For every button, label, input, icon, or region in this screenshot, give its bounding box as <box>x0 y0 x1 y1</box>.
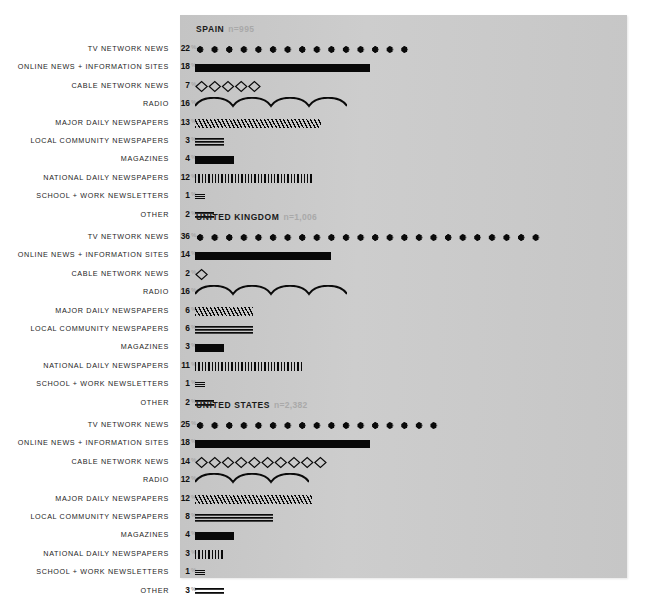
bar-dots <box>195 418 438 433</box>
value-label: 2 <box>172 397 190 407</box>
category-label: ONLINE NEWS + INFORMATION SITES <box>18 62 169 71</box>
value-label: 7 <box>172 80 190 90</box>
chart-row: MAJOR DAILY NEWSPAPERS12% <box>0 492 667 507</box>
chart-row: CABLE NETWORK NEWS7% <box>0 79 667 94</box>
bar-rules2 <box>195 584 224 599</box>
value-label: 14 <box>172 249 190 259</box>
bar-block <box>195 528 234 543</box>
bar-rules3 <box>195 322 253 337</box>
chart-row: ONLINE NEWS + INFORMATION SITES18% <box>0 436 667 451</box>
value-label: 16 <box>172 98 190 108</box>
category-label: MAJOR DAILY NEWSPAPERS <box>55 494 169 503</box>
chart-row: RADIO12% <box>0 473 667 488</box>
category-label: RADIO <box>143 475 169 484</box>
category-label: OTHER <box>141 210 169 219</box>
bar-block <box>195 340 224 355</box>
category-label: RADIO <box>143 99 169 108</box>
chart-row: RADIO16% <box>0 97 667 112</box>
chart-row: SCHOOL + WORK NEWSLETTERS1% <box>0 189 667 204</box>
bar-rules3 <box>195 134 224 149</box>
bar-rules3t <box>195 565 205 580</box>
category-label: LOCAL COMMUNITY NEWSPAPERS <box>30 512 169 521</box>
value-label: 6 <box>172 323 190 333</box>
chart-row: OTHER3% <box>0 584 667 599</box>
chart-row: TV NETWORK NEWS25% <box>0 418 667 433</box>
value-label: 4 <box>172 153 190 163</box>
chart-row: MAGAZINES4% <box>0 152 667 167</box>
chart-row: ONLINE NEWS + INFORMATION SITES18% <box>0 60 667 75</box>
bar-solid <box>195 60 370 75</box>
chart-row: CABLE NETWORK NEWS14% <box>0 455 667 470</box>
value-label: 13 <box>172 117 190 127</box>
value-label: 8 <box>172 511 190 521</box>
value-label: 18 <box>172 61 190 71</box>
country-name: UNITED KINGDOM <box>196 212 279 222</box>
category-label: NATIONAL DAILY NEWSPAPERS <box>43 361 169 370</box>
value-label: 18 <box>172 437 190 447</box>
bar-diamonds <box>195 79 263 94</box>
category-label: MAGAZINES <box>121 342 169 351</box>
category-label: TV NETWORK NEWS <box>88 232 169 241</box>
bar-solid <box>195 248 331 263</box>
chart-row: NATIONAL DAILY NEWSPAPERS12% <box>0 171 667 186</box>
value-label: 3 <box>172 341 190 351</box>
chart-row: OTHER2% <box>0 396 667 411</box>
value-label: 12 <box>172 172 190 182</box>
value-label: 3 <box>172 585 190 595</box>
bar-ticks <box>195 359 302 374</box>
bar-hatch <box>195 116 321 131</box>
category-label: LOCAL COMMUNITY NEWSPAPERS <box>30 324 169 333</box>
category-label: OTHER <box>141 586 169 595</box>
value-label: 16 <box>172 286 190 296</box>
chart-row: ONLINE NEWS + INFORMATION SITES14% <box>0 248 667 263</box>
bar-block <box>195 152 234 167</box>
value-label: 4 <box>172 529 190 539</box>
category-label: CABLE NETWORK NEWS <box>71 81 169 90</box>
chart-row: CABLE NETWORK NEWS2% <box>0 267 667 282</box>
bar-rules3t <box>195 189 205 204</box>
chart-row: RADIO16% <box>0 285 667 300</box>
bar-ticks <box>195 171 312 186</box>
value-label: 2 <box>172 268 190 278</box>
sample-size-label: n=995 <box>228 24 254 34</box>
country-name: UNITED STATES <box>196 400 270 410</box>
bar-wave <box>195 473 312 488</box>
category-label: RADIO <box>143 287 169 296</box>
category-label: CABLE NETWORK NEWS <box>71 457 169 466</box>
category-label: ONLINE NEWS + INFORMATION SITES <box>18 250 169 259</box>
value-label: 11 <box>172 360 190 370</box>
bar-diamonds <box>195 267 214 282</box>
sample-size-label: n=1,006 <box>283 212 317 222</box>
value-label: 2 <box>172 209 190 219</box>
category-label: MAJOR DAILY NEWSPAPERS <box>55 306 169 315</box>
value-label: 1 <box>172 566 190 576</box>
category-label: LOCAL COMMUNITY NEWSPAPERS <box>30 136 169 145</box>
chart-row: NATIONAL DAILY NEWSPAPERS11% <box>0 359 667 374</box>
sample-size-label: n=2,382 <box>274 400 308 410</box>
category-label: SCHOOL + WORK NEWSLETTERS <box>36 191 169 200</box>
value-label: 36 <box>172 231 190 241</box>
bar-solid <box>195 436 370 451</box>
media-source-comparison-chart: SPAINn=995TV NETWORK NEWS22%ONLINE NEWS … <box>0 0 667 609</box>
chart-row: TV NETWORK NEWS22% <box>0 42 667 57</box>
bar-dots <box>195 42 409 57</box>
chart-row: LOCAL COMMUNITY NEWSPAPERS6% <box>0 322 667 337</box>
category-label: TV NETWORK NEWS <box>88 420 169 429</box>
value-label: 3 <box>172 135 190 145</box>
bar-rules3 <box>195 510 273 525</box>
bar-rules3t <box>195 377 205 392</box>
bar-hatch <box>195 304 253 319</box>
category-label: MAJOR DAILY NEWSPAPERS <box>55 118 169 127</box>
chart-row: MAJOR DAILY NEWSPAPERS6% <box>0 304 667 319</box>
bar-hatch <box>195 492 312 507</box>
bar-dots <box>195 230 545 245</box>
chart-row: NATIONAL DAILY NEWSPAPERS3% <box>0 547 667 562</box>
bar-wave <box>195 97 351 112</box>
category-label: TV NETWORK NEWS <box>88 44 169 53</box>
category-label: NATIONAL DAILY NEWSPAPERS <box>43 173 169 182</box>
value-label: 14 <box>172 456 190 466</box>
category-label: ONLINE NEWS + INFORMATION SITES <box>18 438 169 447</box>
country-title: UNITED KINGDOMn=1,006 <box>196 212 317 222</box>
value-label: 12 <box>172 493 190 503</box>
category-label: NATIONAL DAILY NEWSPAPERS <box>43 549 169 558</box>
